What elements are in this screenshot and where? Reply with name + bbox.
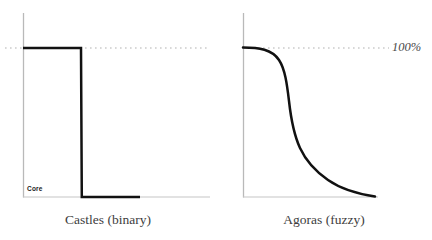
caption-castles: Castles (binary)	[0, 213, 216, 227]
reference-value-label: 100%	[392, 41, 421, 54]
castles-plot	[0, 0, 216, 240]
figure-canvas: Core Core 100% Castles (binary) Agoras (…	[0, 0, 432, 240]
core-region-label: Core	[27, 186, 43, 193]
agoras-plot	[216, 0, 432, 240]
chart-panel-castles: Core	[0, 0, 216, 240]
membership-curve-fuzzy	[243, 48, 375, 197]
chart-panel-agoras: Core	[216, 0, 432, 240]
caption-agoras: Agoras (fuzzy)	[216, 213, 432, 227]
membership-curve-binary	[23, 48, 140, 197]
